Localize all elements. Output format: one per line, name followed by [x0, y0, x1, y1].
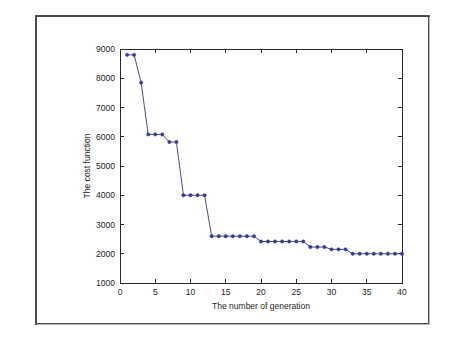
data-point: [224, 235, 227, 238]
y-tick-label: 6000: [96, 132, 115, 142]
data-point: [210, 235, 213, 238]
y-axis-title: The cost function: [82, 133, 92, 198]
x-tick-label: 25: [292, 287, 302, 297]
x-tick-label: 0: [118, 287, 123, 297]
x-axis-tick-labels: 0510152025303540: [118, 287, 407, 297]
data-point: [365, 252, 368, 255]
data-point: [295, 240, 298, 243]
y-tick-label: 5000: [96, 161, 115, 171]
x-axis-ticks: [120, 49, 402, 283]
figure-frame: 100020003000400050006000700080009000 051…: [35, 15, 430, 325]
y-tick-label: 2000: [96, 249, 115, 259]
x-tick-label: 5: [153, 287, 158, 297]
y-tick-label: 1000: [96, 278, 115, 288]
y-tick-label: 3000: [96, 220, 115, 230]
data-point: [132, 53, 135, 56]
data-point: [161, 133, 164, 136]
x-tick-label: 10: [186, 287, 196, 297]
data-point: [273, 240, 276, 243]
plot-box-border: [120, 49, 402, 283]
data-point: [393, 252, 396, 255]
y-tick-label: 7000: [96, 103, 115, 113]
data-point: [203, 194, 206, 197]
data-point: [372, 252, 375, 255]
data-point: [337, 248, 340, 251]
data-point: [323, 245, 326, 248]
y-axis-tick-labels: 100020003000400050006000700080009000: [96, 44, 115, 288]
y-tick-label: 4000: [96, 190, 115, 200]
data-point: [217, 235, 220, 238]
data-point: [196, 194, 199, 197]
data-point: [252, 235, 255, 238]
data-point: [288, 240, 291, 243]
data-point: [154, 133, 157, 136]
y-tick-label: 9000: [96, 44, 115, 54]
x-tick-label: 15: [221, 287, 231, 297]
x-tick-label: 20: [256, 287, 266, 297]
page-root: 100020003000400050006000700080009000 051…: [0, 0, 457, 342]
data-point: [259, 240, 262, 243]
data-point: [125, 53, 128, 56]
plot-box: [120, 49, 402, 283]
data-point: [189, 194, 192, 197]
data-point: [266, 240, 269, 243]
x-tick-label: 40: [397, 287, 407, 297]
x-tick-label: 35: [362, 287, 372, 297]
series-line-cost: [127, 55, 402, 254]
series-cost: [125, 53, 403, 255]
data-point: [309, 245, 312, 248]
data-point: [139, 81, 142, 84]
data-point: [379, 252, 382, 255]
data-point: [175, 140, 178, 143]
data-point: [245, 235, 248, 238]
data-point: [238, 235, 241, 238]
data-point: [280, 240, 283, 243]
data-point: [168, 140, 171, 143]
data-point: [330, 248, 333, 251]
data-point: [400, 252, 403, 255]
data-point: [147, 133, 150, 136]
data-point: [231, 235, 234, 238]
cost-function-line-chart: 100020003000400050006000700080009000 051…: [37, 17, 428, 323]
data-point: [386, 252, 389, 255]
data-point: [302, 240, 305, 243]
x-axis-title: The number of generation: [212, 301, 310, 311]
data-point: [316, 245, 319, 248]
x-tick-label: 30: [327, 287, 337, 297]
data-point: [344, 248, 347, 251]
data-point: [351, 252, 354, 255]
data-point: [358, 252, 361, 255]
y-axis-ticks: [120, 49, 402, 283]
chart-area: 100020003000400050006000700080009000 051…: [37, 17, 428, 323]
data-point: [182, 194, 185, 197]
y-tick-label: 8000: [96, 73, 115, 83]
